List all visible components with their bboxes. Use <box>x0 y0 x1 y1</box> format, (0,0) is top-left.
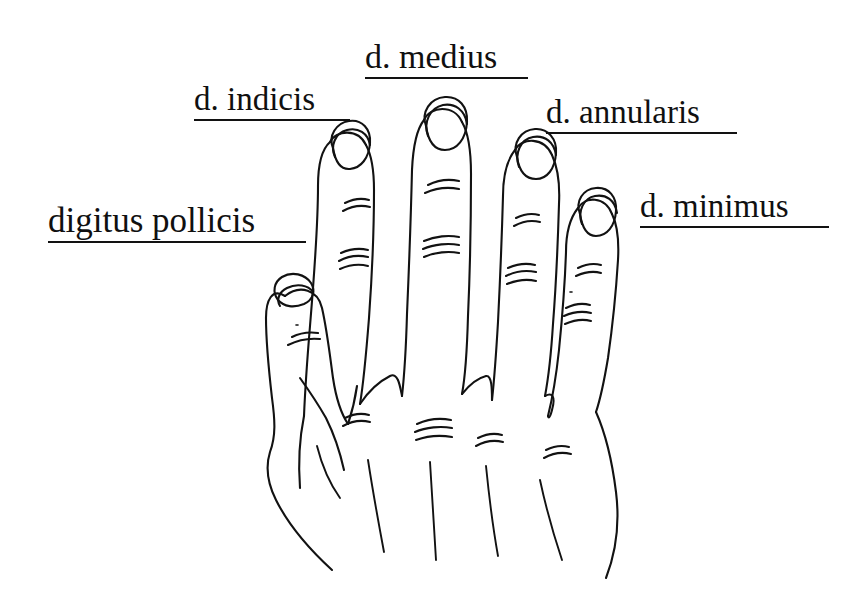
label-digitus-medius-underline <box>365 77 528 79</box>
label-digitus-medius-text: d. medius <box>365 40 528 74</box>
digit-indicis-outline <box>304 133 374 416</box>
label-digitus-pollicis: digitus pollicis <box>48 203 306 243</box>
digit-medius-creases <box>423 180 459 257</box>
digit-minimus-creases <box>564 264 601 324</box>
hand-illustration <box>0 0 864 605</box>
digit-annularis-creases <box>506 214 540 284</box>
figure-page: digitus pollicis d. indicis d. medius d.… <box>0 0 864 605</box>
label-digitus-indicis: d. indicis <box>194 83 350 121</box>
label-digitus-annularis-underline <box>546 132 737 134</box>
label-digitus-minimus-underline <box>640 226 829 228</box>
label-digitus-indicis-underline <box>194 119 350 121</box>
digit-medius-nail <box>425 97 467 150</box>
label-digitus-annularis: d. annularis <box>546 96 737 134</box>
hand-dorsum-outline <box>299 375 617 578</box>
label-digitus-medius: d. medius <box>365 40 528 79</box>
digit-pollicis-creases <box>288 325 320 345</box>
digit-indicis-nail <box>331 121 370 169</box>
label-digitus-pollicis-underline <box>48 241 306 243</box>
label-digitus-pollicis-text: digitus pollicis <box>48 203 306 238</box>
digit-annularis-nail <box>516 129 556 179</box>
digit-indicis-creases <box>339 199 370 269</box>
label-digitus-annularis-text: d. annularis <box>546 96 737 129</box>
label-digitus-minimus-text: d. minimus <box>640 190 829 223</box>
label-digitus-minimus: d. minimus <box>640 190 829 228</box>
label-digitus-indicis-text: d. indicis <box>194 83 350 116</box>
hand-knuckle-creases <box>343 414 571 458</box>
hand-tendon-lines <box>317 446 562 560</box>
